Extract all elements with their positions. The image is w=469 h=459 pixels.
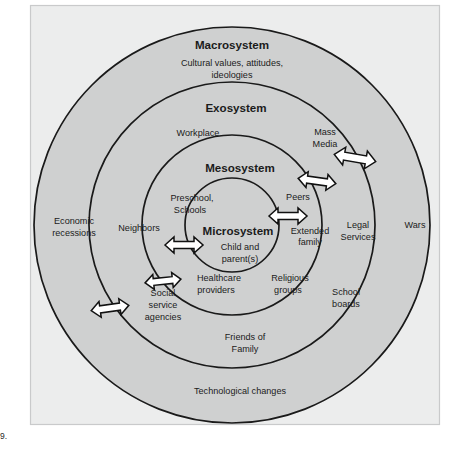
microsystem-subtitle-line1: Child and — [221, 242, 259, 252]
macrosystem-title: Macrosystem — [195, 38, 269, 51]
label-economic-line2: recessions — [52, 228, 96, 238]
label-social-line2: service — [149, 300, 178, 310]
label-workplace: Workplace — [177, 128, 220, 138]
label-economic-line1: Economic — [54, 216, 94, 226]
label-legal-line2: Services — [341, 232, 376, 242]
label-preschool-line1: Preschool, — [171, 193, 214, 203]
macrosystem-subtitle-line1: Cultural values, attitudes, — [181, 58, 283, 68]
label-school-boards-line1: School — [332, 287, 360, 297]
label-extended-line1: Extended — [291, 226, 329, 236]
ecological-systems-figure: Macrosystem Cultural values, attitudes, … — [0, 0, 469, 459]
label-preschool-line2: Schools — [174, 205, 207, 215]
label-peers: Peers — [286, 192, 310, 202]
ecological-systems-diagram: Macrosystem Cultural values, attitudes, … — [0, 0, 469, 459]
label-neighbors: Neighbors — [118, 223, 160, 233]
figure-number-label: 9. — [0, 431, 7, 441]
microsystem-subtitle-line2: parent(s) — [222, 254, 258, 264]
label-legal-line1: Legal — [347, 220, 369, 230]
label-friends-line2: Family — [232, 344, 259, 354]
macrosystem-subtitle-line2: ideologies — [212, 70, 253, 80]
microsystem-title: Microsystem — [203, 224, 274, 237]
label-mass-media-line2: Media — [313, 139, 339, 149]
label-healthcare-line2: providers — [197, 285, 235, 295]
label-extended-line2: family — [298, 237, 322, 247]
mesosystem-title: Mesosystem — [205, 161, 275, 174]
label-wars: Wars — [405, 220, 426, 230]
label-school-boards-line2: boards — [332, 299, 360, 309]
label-mass-media-line1: Mass — [314, 127, 336, 137]
exosystem-title: Exosystem — [205, 101, 266, 114]
label-social-line3: agencies — [145, 312, 182, 322]
label-religious-line2: groups — [274, 285, 302, 295]
label-religious-line1: Religious — [271, 273, 309, 283]
label-healthcare-line1: Healthcare — [197, 273, 241, 283]
label-friends-line1: Friends of — [225, 332, 266, 342]
label-technological-changes: Technological changes — [194, 386, 286, 396]
